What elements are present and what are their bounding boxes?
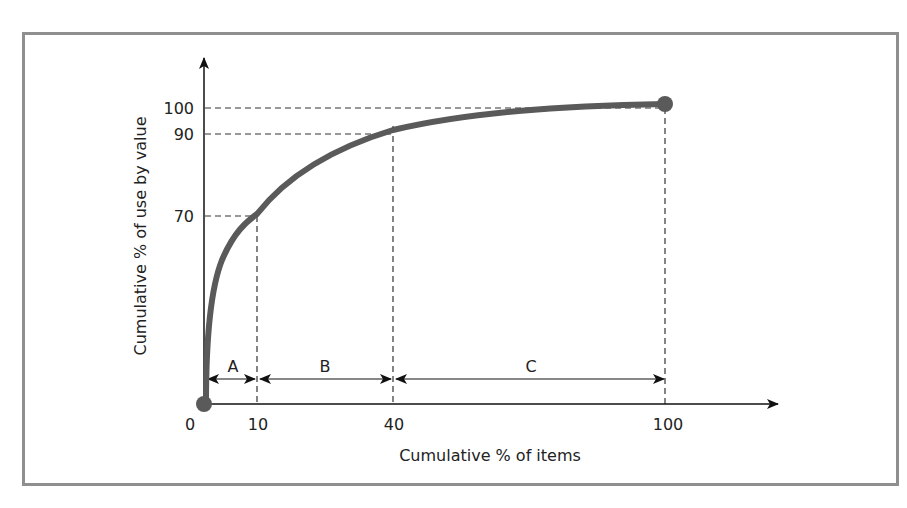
segment-label-b: B [320,357,331,376]
y-axis-label: Cumulative % of use by value [131,116,150,355]
reference-lines [205,108,665,404]
x-tick-10: 10 [248,415,268,434]
y-tick-70: 70 [174,207,194,226]
pareto-curve [206,104,665,404]
start-point [196,396,212,412]
x-tick-0: 0 [185,415,195,434]
segment-label-c: C [525,357,536,376]
x-tick-40: 40 [384,415,404,434]
y-tick-90: 90 [174,125,194,144]
x-tick-100: 100 [653,415,684,434]
segment-label-a: A [228,357,239,376]
abc-chart: 100 90 70 0 10 40 100 A B C Cumulative %… [0,0,907,508]
end-point [657,96,673,112]
x-axis-label: Cumulative % of items [399,446,581,465]
y-tick-100: 100 [163,99,194,118]
